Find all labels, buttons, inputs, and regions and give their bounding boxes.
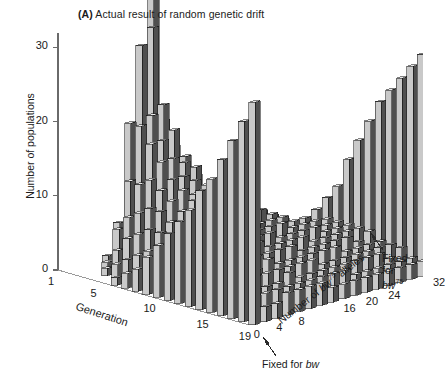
bar-3d	[196, 189, 208, 309]
allele-tick-label: 32	[433, 276, 445, 288]
bar-3d	[111, 276, 123, 285]
bar-3d	[153, 244, 165, 298]
allele-tick-label: 0	[254, 328, 260, 340]
bar-3d	[206, 177, 218, 312]
bar-field	[101, 0, 423, 325]
figure-title: (A) Actual result of random genetic drif…	[78, 8, 264, 20]
generation-tick-label: 10	[143, 302, 155, 314]
bar-3d	[143, 256, 155, 295]
y-axis-label: Number of populations	[24, 56, 36, 236]
fixed-bw-allele: bw	[306, 358, 319, 370]
axis-lines	[53, 33, 58, 270]
panel-tag: (A)	[78, 8, 93, 20]
annotation-fixed-for-bw: Fixed for bw	[262, 358, 319, 370]
annotation-fixed-for-bw75: Fixed for bw75	[382, 252, 408, 291]
bar-3d	[217, 158, 229, 316]
y-tick-label: 10	[26, 188, 48, 200]
generation-tick-label: 15	[196, 318, 208, 330]
bar-3d	[417, 260, 423, 277]
bar-3d	[185, 208, 197, 306]
bar-3d	[175, 220, 187, 303]
bar-3d	[164, 232, 176, 300]
bar-3d	[122, 272, 134, 289]
bar-3d	[249, 101, 261, 325]
bar-3d	[361, 276, 373, 293]
y-tick-label: 0	[26, 262, 48, 274]
generation-tick-label: 1	[48, 275, 54, 287]
allele-tick-label: 20	[366, 295, 378, 307]
bar-3d	[417, 53, 423, 270]
bar-3d	[238, 120, 250, 322]
bar-3d	[338, 282, 350, 299]
bar-3d	[375, 100, 387, 258]
title-text: Actual result of random genetic drift	[95, 8, 264, 20]
allele-tick-label: 4	[276, 321, 282, 333]
allele-tick-label: 8	[299, 315, 305, 327]
allele-tick-label: 16	[343, 302, 355, 314]
bar-3d	[101, 267, 113, 276]
generation-tick-label: 19	[239, 330, 251, 342]
y-tick-label: 30	[26, 39, 48, 51]
fixed-bw-text: Fixed for	[262, 358, 306, 370]
bar-3d	[260, 305, 272, 322]
bar-3d	[350, 279, 362, 296]
generation-tick-label: 5	[90, 287, 96, 299]
bar-3d	[386, 88, 398, 260]
allele-tick-label: 24	[388, 289, 400, 301]
bar-3d	[228, 139, 240, 319]
y-tick-label: 20	[26, 114, 48, 126]
bar-3d	[132, 267, 144, 291]
fixed-line2: for	[382, 264, 408, 276]
bar-3d	[396, 77, 408, 264]
fixed-line1: Fixed	[382, 252, 408, 264]
bar-3d	[407, 65, 419, 267]
